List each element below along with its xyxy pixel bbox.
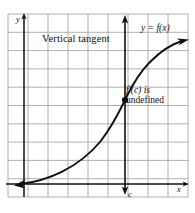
derivative-label-line2: undefined [126, 95, 164, 105]
y-axis [21, 13, 26, 197]
x-axis-label: x [177, 185, 181, 194]
vertical-tangent-label: Vertical tangent [42, 33, 110, 44]
derivative-label-line1: f′(c) is [126, 85, 150, 95]
derivative-undefined-label: f′(c) is undefined [126, 85, 184, 106]
c-tick-label: c [128, 190, 132, 200]
function-label: y = f(x) [141, 23, 170, 33]
vertical-tangent-figure: Vertical tangent y = f(x) f′(c) is undef… [0, 0, 195, 213]
function-curve [14, 39, 189, 189]
y-axis-label: y [16, 15, 20, 24]
